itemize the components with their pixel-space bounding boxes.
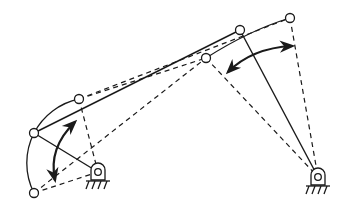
left-joint-trajectory-arc — [27, 99, 79, 193]
four-bar-linkage-diagram — [0, 0, 352, 216]
right-ground-pivot-icon — [306, 168, 330, 194]
rocker-joint-main-icon — [236, 26, 245, 35]
crank-joint-lower-icon — [30, 189, 39, 198]
coupler-link — [34, 30, 240, 133]
crank-joint-main-icon — [30, 129, 39, 138]
rocker-joint-left-icon — [202, 54, 211, 63]
rocker-joint-right-icon — [286, 14, 295, 23]
crank-link — [34, 133, 98, 172]
alternate-positions — [34, 18, 318, 193]
crank-joint-upper-icon — [75, 95, 84, 104]
joints — [30, 14, 295, 198]
rocker-link — [240, 30, 318, 177]
right-joint-trajectory-arc — [206, 18, 290, 58]
